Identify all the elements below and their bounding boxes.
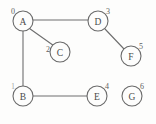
node-label-f: F [128,52,133,62]
node-layer: A0B1C2D3E4F5G6 [11,7,144,107]
node-label-a: A [20,17,27,27]
node-index-e: 4 [105,82,109,91]
node-index-g: 6 [140,82,144,91]
node-index-d: 3 [106,7,110,16]
node-c[interactable]: C2 [46,42,70,62]
graph-canvas: A0B1C2D3E4F5G6 [0,0,156,124]
graph-figure: A0B1C2D3E4F5G6 [0,0,156,124]
edge-d-f [105,29,124,49]
node-label-c: C [57,48,63,58]
node-b[interactable]: B1 [11,82,33,107]
node-g[interactable]: G6 [122,82,144,107]
node-index-c: 2 [46,45,50,54]
node-f[interactable]: F5 [121,42,143,67]
node-index-f: 5 [139,42,143,51]
node-index-b: 1 [11,82,15,91]
node-label-b: B [20,92,26,102]
node-label-e: E [94,92,100,102]
node-index-a: 0 [11,7,15,16]
node-label-d: D [95,17,102,27]
node-label-g: G [129,92,136,102]
node-a[interactable]: A0 [11,7,33,32]
node-e[interactable]: E4 [87,82,109,107]
edge-a-c [30,29,54,46]
node-d[interactable]: D3 [88,7,110,32]
